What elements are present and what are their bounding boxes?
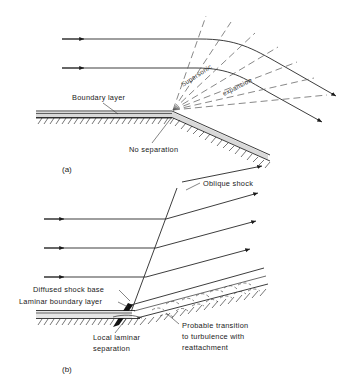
label-local-laminar-separation-line2: separation [93,344,130,353]
caption-panel-b: (b) [62,365,72,374]
leader-oblique-shock [186,183,200,190]
label-boundary-layer: Boundary layer [72,93,125,102]
caption-panel-a: (a) [62,165,72,174]
label-no-separation: No separation [129,145,178,154]
leader-laminar-boundary-layer [118,302,128,307]
oblique-shock-line [131,188,177,312]
leader-no-separation [152,117,172,143]
wall-hatching-a-ramp [175,120,270,168]
label-probable-transition-line2: to turbulence with [182,332,244,341]
label-diffused-shock-base: Diffused shock base [33,285,104,294]
surface-b-flat [36,311,140,326]
label-oblique-shock: Oblique shock [203,179,253,188]
wall-hatching-a-flat [36,118,174,124]
label-probable-transition-line1: Probable transition [182,321,248,330]
leader-probable-transition [166,313,179,324]
label-probable-transition-line3: reattachment [182,343,228,352]
leader-diffused-shock-base [119,290,130,301]
label-expansion: expansion [221,76,253,98]
expansion-fan-a [173,16,327,110]
flow-diagram-figure: Boundary layer No separation Supersonic … [0,0,364,386]
panel-b: Oblique shock Diffused shock base Lamina… [19,166,268,374]
surface-b-ramp [131,268,268,325]
panel-a: Boundary layer No separation Supersonic … [36,16,336,174]
streamlines-a [62,39,336,122]
label-local-laminar-separation-line1: Local laminar [93,333,140,342]
label-laminar-boundary-layer: Laminar boundary layer [19,297,102,306]
